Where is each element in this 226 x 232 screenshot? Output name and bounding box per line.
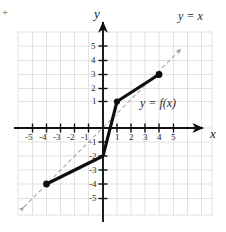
ytick-label-neg2: -2 [89,151,97,161]
xtick-label-4: 4 [157,132,162,142]
ytick-label-4: 4 [91,55,96,65]
xtick-label-1: 1 [115,132,120,142]
xtick-label-neg2: -2 [67,132,75,142]
ytick-label-neg4: -4 [89,179,97,189]
graph-figure: + [0,0,226,232]
ytick-label-neg5: -5 [89,193,97,203]
endpoint-dot-right [156,71,163,78]
x-axis-label: x [210,126,216,142]
ytick-label-2: 2 [91,83,96,93]
vertex-dot-middle [114,98,120,104]
ytick-label-neg3: -3 [89,165,97,175]
ytick-label-3: 3 [91,69,96,79]
function-curve-label: y = f(x) [140,96,176,111]
identity-line-label: y = x [178,9,203,24]
xtick-label-neg3: -3 [53,132,61,142]
ytick-label-1: 1 [92,96,97,106]
xtick-label-neg1: -1 [81,132,89,142]
xtick-label-neg4: -4 [39,132,47,142]
xtick-label-neg5: -5 [25,132,33,142]
xtick-label-3: 3 [143,132,148,142]
xtick-label-5: 5 [171,132,176,142]
endpoint-dot-left [43,181,50,188]
y-axis-label: y [94,6,100,22]
ytick-label-neg1: -1 [89,137,97,147]
ytick-label-5: 5 [91,41,96,51]
coordinate-plane [0,0,226,232]
y-axis [99,22,108,222]
xtick-label-2: 2 [129,132,134,142]
